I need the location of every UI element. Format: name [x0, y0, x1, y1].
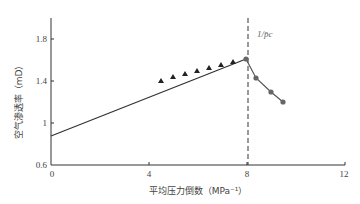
x-tick-label: 0 [50, 169, 55, 179]
x-axis-title: 平均压力倒数（MPa⁻¹） [149, 185, 248, 196]
triangle-marker [194, 68, 200, 73]
triangle-marker [206, 65, 212, 70]
y-tick-label: 1.4 [36, 76, 48, 86]
triangle-marker [182, 71, 188, 76]
y-axis-title: 空气渗透率（mD） [13, 61, 24, 140]
x-tick-label: 4 [147, 169, 152, 179]
circle-marker [280, 99, 285, 104]
circle-marker [253, 75, 258, 80]
circle-series [243, 56, 285, 104]
circle-marker [243, 56, 248, 61]
permeability-chart: 1.8 1.4 1 0.6 0 4 8 12 平均压力倒数（MPa⁻¹） 空气渗… [0, 0, 360, 204]
fit-line [51, 59, 246, 136]
y-tick-label: 1.8 [36, 34, 48, 44]
y-tick-label: 1 [43, 118, 48, 128]
triangle-series [158, 59, 236, 83]
triangle-marker [230, 59, 236, 64]
triangle-marker [170, 74, 176, 79]
y-tick-label: 0.6 [36, 160, 48, 170]
x-tick-label: 12 [340, 169, 349, 179]
circle-marker [268, 89, 273, 94]
circle-series-line [246, 59, 283, 102]
triangle-marker [218, 62, 224, 67]
triangle-marker [158, 78, 164, 83]
critical-pressure-label: 1/p̄c [257, 29, 273, 39]
x-tick-label: 8 [245, 169, 250, 179]
